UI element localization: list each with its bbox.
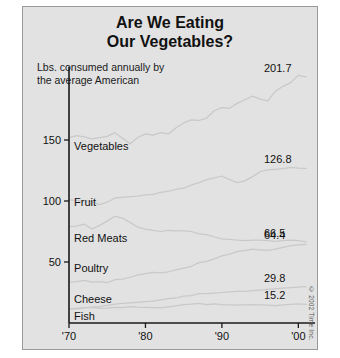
series-label-vegetables: Vegetables <box>74 140 129 152</box>
end-value-fish: 15.2 <box>264 289 285 301</box>
end-value-labels: 201.7126.866.564.429.815.2 <box>264 62 292 302</box>
series-label-poultry: Poultry <box>74 262 109 274</box>
x-tick-label: '00 <box>291 330 305 342</box>
y-tick-label: 150 <box>43 134 61 146</box>
series-line-vegetables <box>69 75 306 143</box>
series-labels: VegetablesFruitRed MeatsPoultryCheeseFis… <box>74 140 129 322</box>
series-label-red-meats: Red Meats <box>74 232 128 244</box>
series-label-fish: Fish <box>74 310 95 322</box>
y-tick-label: 50 <box>49 256 61 268</box>
x-tick-label: '90 <box>215 330 229 342</box>
series-label-cheese: Cheese <box>74 293 112 305</box>
end-value-vegetables: 201.7 <box>264 62 292 74</box>
end-value-cheese: 29.8 <box>264 272 285 284</box>
chart-card: Are We Eating Our Vegetables? Lbs. consu… <box>22 6 318 350</box>
end-value-fruit: 126.8 <box>264 153 292 165</box>
series-line-fruit <box>69 167 306 204</box>
series-label-fruit: Fruit <box>74 196 96 208</box>
copyright-notice: © 2002 Time Inc. <box>308 286 315 341</box>
line-chart-plot: 50100150'70'80'90'00 VegetablesFruitRed … <box>23 7 318 350</box>
end-value-poultry: 64.4 <box>264 229 285 241</box>
x-tick-label: '80 <box>138 330 152 342</box>
y-tick-label: 100 <box>43 195 61 207</box>
x-tick-label: '70 <box>62 330 76 342</box>
